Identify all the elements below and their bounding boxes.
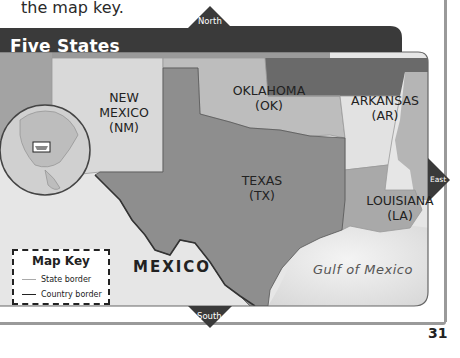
label-oklahoma: OKLAHOMA (OK)	[224, 83, 314, 113]
map-key-title: Map Key	[14, 254, 108, 268]
map-key: Map Key State border Country border	[12, 249, 110, 305]
label-arkansas-name: ARKANSAS	[347, 93, 423, 108]
map-key-item-state-border: State border	[22, 275, 91, 284]
label-mexico: MEXICO	[133, 258, 211, 276]
label-new-mexico: NEW MEXICO (NM)	[94, 90, 154, 135]
compass-north-label: North	[198, 16, 222, 26]
label-oklahoma-name: OKLAHOMA	[224, 83, 314, 98]
country-border-line-icon	[22, 294, 36, 295]
label-texas-abbr: (TX)	[232, 188, 292, 203]
label-louisiana-abbr: (LA)	[358, 208, 442, 223]
label-arkansas: ARKANSAS (AR)	[347, 93, 423, 123]
compass-south-label: South	[197, 311, 222, 321]
page-number: 31	[428, 325, 447, 341]
compass-east-label: East	[430, 175, 446, 184]
state-border-line-icon	[22, 279, 36, 280]
label-louisiana: LOUISIANA (LA)	[358, 193, 442, 223]
label-gulf-of-mexico: Gulf of Mexico	[313, 262, 413, 277]
map-key-state-border-label: State border	[41, 275, 91, 284]
label-texas-name: TEXAS	[232, 173, 292, 188]
label-oklahoma-abbr: (OK)	[224, 98, 314, 113]
label-louisiana-name: LOUISIANA	[358, 193, 442, 208]
globe-inset	[0, 105, 90, 195]
map-title: Five States	[10, 36, 120, 56]
map-key-country-border-label: Country border	[41, 290, 102, 299]
label-new-mexico-line2: MEXICO	[94, 105, 154, 120]
label-texas: TEXAS (TX)	[232, 173, 292, 203]
label-new-mexico-line1: NEW	[94, 90, 154, 105]
label-arkansas-abbr: (AR)	[347, 108, 423, 123]
label-new-mexico-abbr: (NM)	[94, 120, 154, 135]
map-key-item-country-border: Country border	[22, 290, 102, 299]
